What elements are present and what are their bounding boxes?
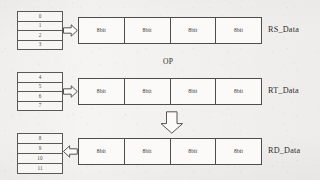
register-row: 10 (18, 154, 62, 164)
lane-cell: 8bit (79, 18, 125, 43)
packed-operand-rt: 8bit 8bit 8bit 8bit (78, 78, 262, 105)
register-row: 8 (18, 134, 62, 144)
bus-label-rs: RS_Data (268, 26, 299, 34)
arrow-down-icon (160, 111, 184, 134)
register-row: 5 (18, 83, 62, 93)
lane-cell: 8bit (216, 139, 261, 164)
register-row: 7 (18, 102, 62, 111)
packed-operand-rd: 8bit 8bit 8bit 8bit (78, 138, 262, 165)
register-row: 11 (18, 164, 62, 173)
register-file-rt: 4 5 6 7 (17, 72, 63, 111)
lane-cell: 8bit (171, 79, 217, 104)
register-row: 9 (18, 144, 62, 154)
operation-label: OP (163, 58, 173, 66)
register-row: 0 (18, 12, 62, 22)
bus-label-rt: RT_Data (268, 87, 299, 95)
register-row: 2 (18, 31, 62, 41)
lane-cell: 8bit (125, 139, 171, 164)
bus-label-rd: RD_Data (268, 147, 300, 155)
lane-cell: 8bit (171, 139, 217, 164)
lane-cell: 8bit (125, 18, 171, 43)
packed-operand-rs: 8bit 8bit 8bit 8bit (78, 17, 262, 44)
register-row: 1 (18, 22, 62, 32)
diagram-canvas: 0 1 2 3 8bit 8bit 8bit 8bit RS_Data OP 4… (0, 0, 320, 180)
lane-cell: 8bit (216, 79, 261, 104)
lane-cell: 8bit (216, 18, 261, 43)
register-file-rd: 8 9 10 11 (17, 133, 63, 174)
lane-cell: 8bit (171, 18, 217, 43)
lane-cell: 8bit (79, 139, 125, 164)
register-file-rs: 0 1 2 3 (17, 11, 63, 50)
register-row: 3 (18, 41, 62, 50)
lane-cell: 8bit (79, 79, 125, 104)
register-row: 4 (18, 73, 62, 83)
lane-cell: 8bit (125, 79, 171, 104)
arrow-left-icon (63, 145, 78, 158)
arrow-right-icon (63, 85, 78, 98)
arrow-right-icon (63, 24, 78, 37)
register-row: 6 (18, 92, 62, 102)
